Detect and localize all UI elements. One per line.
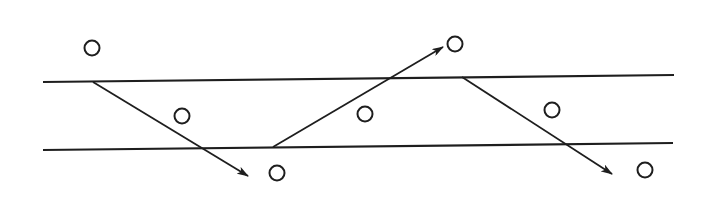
lower-boundary-line: [43, 143, 673, 150]
rays-group: [93, 47, 612, 176]
particle-between-3-circle-icon: [545, 103, 560, 118]
particles-group: [85, 37, 653, 181]
ray-2-up-arrow-icon: [273, 47, 443, 147]
particle-below-1-circle-icon: [270, 166, 285, 181]
particle-above-1-circle-icon: [85, 41, 100, 56]
ray-1-down-arrow-icon: [93, 82, 248, 176]
particle-between-1-circle-icon: [175, 109, 190, 124]
upper-boundary-line: [43, 75, 674, 82]
particle-below-2-circle-icon: [638, 163, 653, 178]
diagram-canvas: [0, 0, 707, 201]
particle-above-2-circle-icon: [448, 37, 463, 52]
particle-between-2-circle-icon: [358, 107, 373, 122]
ray-3-down-arrow-icon: [462, 77, 612, 174]
